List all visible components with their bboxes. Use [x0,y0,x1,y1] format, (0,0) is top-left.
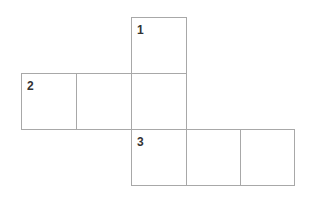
face-label: 2 [27,80,34,92]
face-mid-left: 2 [21,73,77,130]
face-mid-center [76,73,132,130]
face-bottom-center [186,129,241,186]
face-top: 1 [131,17,187,74]
face-mid-right [131,73,187,130]
face-bottom-left: 3 [131,129,187,186]
face-bottom-right [240,129,295,186]
face-label: 3 [137,136,144,148]
cube-net-diagram: 1 2 3 [0,0,313,197]
face-label: 1 [137,24,144,36]
